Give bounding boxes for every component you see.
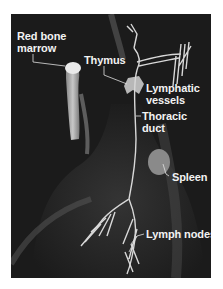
label-spleen: Spleen (172, 171, 207, 183)
lymphatic-system-illustration: Red bone marrow Thymus Lymphatic vessels… (11, 14, 211, 278)
label-line: Spleen (172, 171, 207, 183)
label-line: vessels (146, 94, 200, 106)
label-line: duct (142, 122, 187, 134)
label-line: marrow (17, 42, 66, 54)
label-line: Lymphatic (146, 82, 200, 94)
label-line: Thoracic (142, 110, 187, 122)
label-line: Red bone (17, 30, 66, 42)
label-line: Thymus (84, 54, 126, 66)
label-lymph-nodes: Lymph nodes (146, 228, 211, 240)
label-line: Lymph nodes (146, 228, 211, 240)
label-lymphatic-vessels: Lymphatic vessels (146, 82, 200, 106)
label-red-bone-marrow: Red bone marrow (17, 30, 66, 54)
label-thoracic-duct: Thoracic duct (142, 110, 187, 134)
label-thymus: Thymus (84, 54, 126, 66)
